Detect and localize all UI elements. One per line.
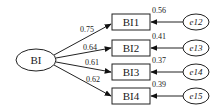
indicator-bi1: BI1 [112,14,150,30]
r2-bi1: 0.56 [152,6,166,15]
loading-bi1: 0.75 [80,25,94,34]
error-node-e12: e12 [183,14,209,30]
error-node-e15: e15 [183,88,209,104]
indicator-bi3: BI3 [112,64,150,80]
r2-bi3: 0.37 [152,56,166,65]
svg-text:BI2: BI2 [123,42,140,54]
indicator-bi4: BI4 [112,88,150,104]
svg-text:BI3: BI3 [123,66,140,78]
svg-text:e12: e12 [190,17,203,27]
loading-bi4: 0.62 [86,75,100,84]
latent-label: BI [31,54,42,66]
latent-node-bi: BI [16,49,56,71]
error-node-e13: e13 [183,40,209,56]
indicator-bi2: BI2 [112,40,150,56]
svg-text:BI1: BI1 [123,16,140,28]
r2-bi2: 0.41 [152,32,166,41]
svg-text:e15: e15 [190,91,203,101]
r2-bi4: 0.39 [152,80,166,89]
svg-text:BI4: BI4 [123,90,140,102]
loading-bi2: 0.64 [83,43,97,52]
svg-text:e13: e13 [190,43,203,53]
svg-text:e14: e14 [190,67,203,77]
loading-paths [54,24,111,96]
loading-bi3: 0.61 [85,58,99,67]
measurement-model-diagram: BI 0.75 0.64 0.61 0.62 BI1 BI2 BI3 BI4 0… [0,0,223,109]
error-node-e14: e14 [183,64,209,80]
